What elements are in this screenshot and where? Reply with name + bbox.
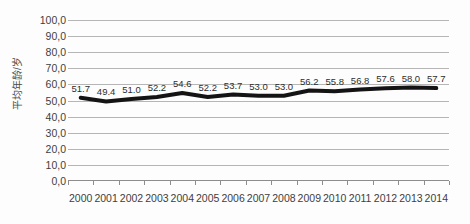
data-label: 54.6 xyxy=(169,79,195,89)
data-label: 52.2 xyxy=(195,83,221,93)
plot-area: 51.749.451.052.254.652.253.753.053.056.2… xyxy=(68,20,449,181)
data-label: 52.2 xyxy=(144,83,170,93)
x-axis-line xyxy=(68,180,449,181)
tick-mark xyxy=(93,181,94,185)
data-label: 56.2 xyxy=(296,77,322,87)
tick-mark xyxy=(68,181,69,185)
data-label: 53.0 xyxy=(271,82,297,92)
tick-mark xyxy=(170,181,171,185)
x-axis-tick-labels: 2000200120022003200420052006200720082009… xyxy=(68,192,449,208)
tick-mark xyxy=(347,181,348,185)
tick-mark xyxy=(220,181,221,185)
y-tick-label: 50,0 xyxy=(22,96,66,106)
data-label: 53.7 xyxy=(220,81,246,91)
data-label: 49.4 xyxy=(93,87,119,97)
tick-mark xyxy=(195,181,196,185)
y-tick-label: 0,0 xyxy=(22,176,66,186)
line-chart: 平均年龄/岁 0,010,020,030,040,050,060,070,080… xyxy=(0,0,470,224)
y-tick-label: 70,0 xyxy=(22,63,66,73)
tick-mark xyxy=(398,181,399,185)
data-label: 51.0 xyxy=(119,85,145,95)
tick-mark xyxy=(449,181,450,185)
data-label: 55.8 xyxy=(322,77,348,87)
y-tick-label: 30,0 xyxy=(22,128,66,138)
tick-mark xyxy=(322,181,323,185)
y-axis-tick-labels: 0,010,020,030,040,050,060,070,080,090,01… xyxy=(22,20,66,181)
x-tick-label: 2014 xyxy=(419,192,453,204)
y-tick-label: 60,0 xyxy=(22,79,66,89)
data-series-line xyxy=(68,20,449,181)
tick-mark xyxy=(373,181,374,185)
data-label: 53.0 xyxy=(246,82,272,92)
tick-mark xyxy=(424,181,425,185)
data-label: 57.6 xyxy=(373,74,399,84)
y-tick-label: 20,0 xyxy=(22,144,66,154)
y-tick-label: 90,0 xyxy=(22,31,66,41)
data-label: 58.0 xyxy=(398,74,424,84)
y-tick-label: 100,0 xyxy=(22,15,66,25)
y-tick-label: 40,0 xyxy=(22,112,66,122)
tick-mark xyxy=(297,181,298,185)
y-tick-label: 10,0 xyxy=(22,160,66,170)
tick-mark xyxy=(144,181,145,185)
tick-mark xyxy=(246,181,247,185)
tick-mark xyxy=(271,181,272,185)
data-label: 51.7 xyxy=(68,84,94,94)
data-label: 57.7 xyxy=(423,74,449,84)
data-label: 56.8 xyxy=(347,76,373,86)
y-tick-label: 80,0 xyxy=(22,47,66,57)
tick-mark xyxy=(119,181,120,185)
